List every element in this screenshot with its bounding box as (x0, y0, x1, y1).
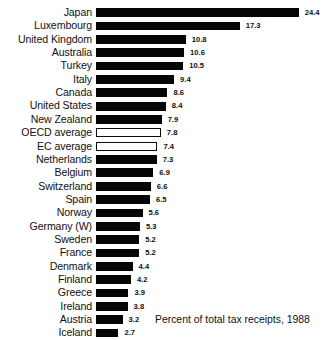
bar (96, 315, 123, 324)
category-label: Sweden (0, 233, 92, 246)
bar-value-label: 10.8 (192, 33, 207, 46)
bar-container (96, 222, 140, 231)
bar-value-label: 4.2 (137, 273, 148, 286)
bar-container (96, 209, 143, 218)
bar-container (96, 329, 118, 338)
bar (96, 168, 153, 177)
bar-row: Greece3.9 (0, 286, 331, 299)
bar-value-label: 7.4 (163, 140, 174, 153)
bar (96, 75, 174, 84)
bar-container (96, 142, 157, 151)
bar-container (96, 249, 139, 258)
bar-container (96, 315, 123, 324)
bar (96, 302, 128, 311)
bar-value-label: 10.5 (189, 59, 204, 72)
bar-row: Australia10.6 (0, 46, 331, 59)
bar-container (96, 115, 162, 124)
category-label: France (0, 246, 92, 259)
bar-row: New Zealand7.9 (0, 113, 331, 126)
category-label: OECD average (0, 126, 92, 139)
category-label: United Kingdom (0, 33, 92, 46)
category-label: Ireland (0, 300, 92, 313)
bar-container (96, 128, 161, 137)
category-label: Iceland (0, 326, 92, 339)
bar-container (96, 182, 151, 191)
bar-value-label: 7.9 (168, 113, 179, 126)
bar-row: Sweden5.2 (0, 233, 331, 246)
bar-row: Germany (W)5.3 (0, 220, 331, 233)
bar (96, 209, 143, 218)
category-label: Austria (0, 313, 92, 326)
category-label: Luxembourg (0, 19, 92, 32)
bar-row: Netherlands7.3 (0, 153, 331, 166)
bar-value-label: 5.3 (146, 220, 157, 233)
bar-row: Italy9.4 (0, 73, 331, 86)
bar (96, 35, 186, 44)
bar (96, 275, 131, 284)
bar (96, 195, 150, 204)
bar-value-label: 5.2 (145, 246, 156, 259)
bar-row: Denmark4.4 (0, 260, 331, 273)
category-label: United States (0, 99, 92, 112)
bar-row: Switzerland6.6 (0, 180, 331, 193)
bar-container (96, 35, 186, 44)
bar-value-label: 6.9 (159, 166, 170, 179)
bar (96, 235, 139, 244)
bar (96, 182, 151, 191)
category-label: Finland (0, 273, 92, 286)
category-label: EC average (0, 140, 92, 153)
bar (96, 329, 118, 338)
bar-row: Japan24.4 (0, 6, 331, 19)
bar-container (96, 235, 139, 244)
bar-row: EC average7.4 (0, 140, 331, 153)
bar-container (96, 62, 183, 71)
bar-row: France5.2 (0, 246, 331, 259)
bar-value-label: 8.4 (172, 99, 183, 112)
bar-row: Turkey10.5 (0, 59, 331, 72)
bar-value-label: 17.3 (246, 19, 261, 32)
bar-value-label: 9.4 (180, 73, 191, 86)
bar-value-label: 7.8 (167, 126, 178, 139)
bar-container (96, 289, 128, 298)
bar-container (96, 302, 128, 311)
bar (96, 22, 240, 31)
chart-caption: Percent of total tax receipts, 1988 (155, 313, 310, 326)
bar-value-label: 5.2 (145, 233, 156, 246)
bar-row: United Kingdom10.8 (0, 33, 331, 46)
bar-row: Belgium6.9 (0, 166, 331, 179)
bar-container (96, 275, 131, 284)
bar (96, 115, 162, 124)
bar-row: Canada8.6 (0, 86, 331, 99)
bar-row: Spain6.5 (0, 193, 331, 206)
bar-value-label: 5.6 (149, 206, 160, 219)
bar (96, 88, 167, 97)
category-label: Japan (0, 6, 92, 19)
bar-container (96, 48, 184, 57)
category-label: Italy (0, 73, 92, 86)
category-label: Belgium (0, 166, 92, 179)
category-label: Greece (0, 286, 92, 299)
category-label: Germany (W) (0, 220, 92, 233)
bar (96, 128, 161, 137)
bar-container (96, 168, 153, 177)
bar-container (96, 22, 240, 31)
bar-container (96, 195, 150, 204)
bar-value-label: 10.6 (190, 46, 205, 59)
category-label: Netherlands (0, 153, 92, 166)
bar-row: OECD average7.8 (0, 126, 331, 139)
bar-value-label: 3.8 (134, 300, 145, 313)
bar (96, 142, 157, 151)
category-label: New Zealand (0, 113, 92, 126)
bar (96, 289, 128, 298)
category-label: Switzerland (0, 180, 92, 193)
bar (96, 249, 139, 258)
bar-value-label: 3.2 (129, 313, 140, 326)
bar-container (96, 75, 174, 84)
bar-container (96, 155, 157, 164)
bar-value-label: 6.6 (157, 180, 168, 193)
bar-value-label: 8.6 (173, 86, 184, 99)
bar (96, 155, 157, 164)
bar-row: Iceland2.7 (0, 326, 331, 339)
bar-row: Norway5.6 (0, 206, 331, 219)
